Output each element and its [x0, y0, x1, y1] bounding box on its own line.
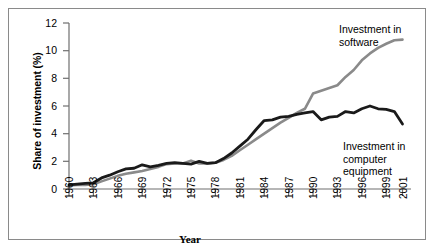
- chart-figure: 0 2 4 6 8 10 12 1960 1963 1966 1969 1972…: [0, 0, 437, 251]
- chart-frame: 0 2 4 6 8 10 12 1960 1963 1966 1969 1972…: [8, 8, 426, 240]
- x-tick-label-1993: 1993: [333, 177, 343, 199]
- x-tick-label-1972: 1972: [163, 177, 173, 199]
- x-tick-label-2001: 2001: [399, 177, 409, 199]
- x-tick-label-1978: 1978: [211, 177, 221, 199]
- y-axis-ticks: [63, 23, 69, 189]
- x-tick-label-1969: 1969: [138, 177, 148, 199]
- x-tick-label-1960: 1960: [65, 177, 75, 199]
- x-tick-label-1996: 1996: [358, 177, 368, 199]
- x-tick-label-1963: 1963: [89, 177, 99, 199]
- series-annotation-software: Investment in software: [339, 23, 401, 48]
- y-axis-title: Share of investment (%): [31, 31, 43, 191]
- x-tick-label-1984: 1984: [260, 177, 270, 199]
- x-tick-label-1975: 1975: [187, 177, 197, 199]
- x-tick-label-1987: 1987: [285, 177, 295, 199]
- y-tick-label-12: 12: [35, 18, 57, 29]
- x-tick-label-1966: 1966: [114, 177, 124, 199]
- x-tick-label-1981: 1981: [236, 177, 246, 199]
- x-tick-label-1990: 1990: [309, 177, 319, 199]
- series-annotation-computer-equipment: Investment in computer equipment: [343, 140, 405, 178]
- x-tick-label-1999: 1999: [382, 177, 392, 199]
- x-axis-title: Year: [179, 233, 201, 245]
